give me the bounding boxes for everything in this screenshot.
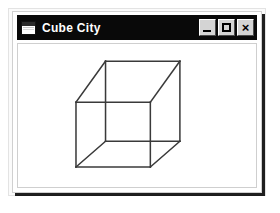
client-area bbox=[17, 43, 257, 188]
maximize-button[interactable] bbox=[218, 19, 235, 36]
screen: Cube City × bbox=[0, 0, 280, 213]
window-icon bbox=[21, 21, 36, 35]
close-icon: × bbox=[238, 20, 253, 35]
cube-edge-front_bottom_left-to-back_bottom_left bbox=[76, 141, 106, 167]
cube-edge-front_bottom_right-to-back_bottom_right bbox=[150, 141, 180, 167]
cube-edge-front_top_right-to-back_top_right bbox=[150, 61, 180, 102]
window-controls: × bbox=[199, 19, 254, 36]
minimize-button[interactable] bbox=[199, 19, 216, 36]
cube-canvas bbox=[18, 44, 256, 187]
window-title: Cube City bbox=[42, 22, 199, 34]
window-titlebar[interactable]: Cube City × bbox=[17, 15, 257, 40]
application-window: Cube City × bbox=[12, 11, 262, 193]
cube-wireframe-icon bbox=[18, 44, 256, 187]
cube-edge-front_top_left-to-back_top_left bbox=[76, 61, 106, 102]
close-button[interactable]: × bbox=[237, 19, 254, 36]
